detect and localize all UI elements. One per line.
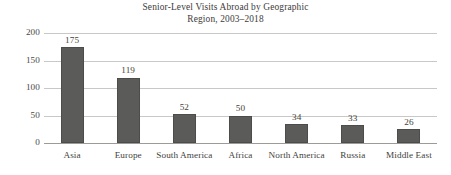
bar-rect[interactable] [117, 78, 140, 143]
bar-value-label: 52 [159, 103, 210, 112]
y-axis-tick-labels: 050100150200 [0, 33, 40, 143]
bar-group[interactable]: 34 [285, 33, 308, 143]
bars-layer: 1751195250343326 [44, 33, 437, 143]
bar-value-label: 34 [271, 113, 322, 122]
bar-rect[interactable] [397, 129, 420, 143]
bar-value-label: 175 [47, 36, 98, 45]
y-tick-label-0: 0 [0, 138, 40, 147]
bar-group[interactable]: 175 [61, 33, 84, 143]
bar-rect[interactable] [341, 125, 364, 143]
bar-rect[interactable] [285, 124, 308, 143]
bar-group[interactable]: 26 [397, 33, 420, 143]
y-tick-label-150: 150 [0, 56, 40, 65]
chart-title: Senior-Level Visits Abroad by Geographic… [0, 1, 451, 25]
bar-rect[interactable] [229, 116, 252, 144]
y-tick-label-100: 100 [0, 83, 40, 92]
axis-baseline [44, 143, 437, 144]
bar-rect[interactable] [173, 114, 196, 143]
bar-group[interactable]: 52 [173, 33, 196, 143]
bar-group[interactable]: 50 [229, 33, 252, 143]
bar-rect[interactable] [61, 47, 84, 143]
y-tick-label-50: 50 [0, 111, 40, 120]
x-axis-category-labels: AsiaEuropeSouth AmericaAfricaNorth Ameri… [44, 150, 437, 166]
bar-value-label: 119 [103, 66, 154, 75]
bar-value-label: 50 [215, 104, 266, 113]
chart-title-line-2: Region, 2003–2018 [0, 13, 451, 25]
bar-group[interactable]: 119 [117, 33, 140, 143]
bar-value-label: 33 [327, 114, 378, 123]
x-category-label: Middle East [375, 150, 443, 160]
bar-chart-figure: Senior-Level Visits Abroad by Geographic… [0, 0, 451, 175]
y-tick-label-200: 200 [0, 28, 40, 37]
bar-group[interactable]: 33 [341, 33, 364, 143]
bar-value-label: 26 [383, 118, 434, 127]
chart-title-line-1: Senior-Level Visits Abroad by Geographic [0, 1, 451, 13]
